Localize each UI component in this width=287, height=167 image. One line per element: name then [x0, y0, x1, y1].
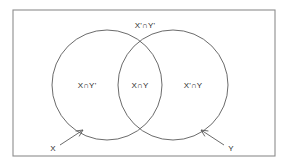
callout-set-x: X [50, 130, 83, 153]
set-label-y: Y [228, 144, 234, 153]
region-label-y-only: X'∩Y [184, 81, 203, 90]
callout-set-y: Y [201, 130, 234, 153]
region-label-intersection: X∩Y [131, 81, 148, 90]
set-label-x: X [50, 144, 56, 153]
venn-diagram-figure: X'∩Y' X∩Y' X∩Y X'∩Y X Y [0, 0, 287, 167]
region-label-outside-both: X'∩Y' [135, 21, 156, 30]
venn-diagram-canvas: X'∩Y' X∩Y' X∩Y X'∩Y X Y [0, 0, 287, 167]
region-label-x-only: X∩Y' [78, 81, 97, 90]
